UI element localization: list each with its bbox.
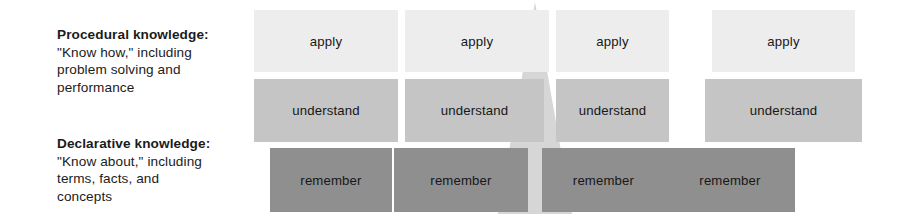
matrix-cell-remember-1: remember: [270, 148, 392, 212]
legend-procedural-title: Procedural knowledge:: [57, 26, 257, 44]
legend-procedural-line-3: performance: [57, 79, 257, 97]
legend-procedural-knowledge: Procedural knowledge: "Know how," includ…: [57, 26, 257, 96]
matrix-cell-label: remember: [430, 173, 491, 188]
matrix-cell-remember-4: remember: [665, 148, 795, 212]
matrix-cell-apply-4: apply: [712, 10, 855, 72]
legend-declarative-line-2: terms, facts, and: [57, 170, 257, 188]
matrix-cell-label: remember: [699, 173, 760, 188]
legend-procedural-line-2: problem solving and: [57, 61, 257, 79]
matrix-cell-remember-3: remember: [542, 148, 665, 212]
matrix-cell-label: understand: [441, 103, 509, 118]
legend-procedural-line-1: "Know how," including: [57, 44, 257, 62]
matrix-cell-label: apply: [596, 34, 628, 49]
matrix-cell-label: understand: [292, 103, 360, 118]
legend-declarative-title: Declarative knowledge:: [57, 135, 257, 153]
matrix-cell-label: remember: [573, 173, 634, 188]
matrix-cell-label: apply: [461, 34, 493, 49]
matrix-cell-apply-3: apply: [556, 10, 669, 72]
legend-declarative-line-1: "Know about," including: [57, 153, 257, 171]
matrix-cell-label: understand: [750, 103, 818, 118]
matrix-cell-understand-1: understand: [254, 79, 398, 142]
legend-declarative-knowledge: Declarative knowledge: "Know about," inc…: [57, 135, 257, 205]
matrix-cell-label: understand: [579, 103, 647, 118]
matrix-cell-apply-2: apply: [405, 10, 549, 72]
matrix-cell-understand-4: understand: [705, 79, 862, 142]
knowledge-matrix-figure: Procedural knowledge: "Know how," includ…: [0, 0, 899, 218]
matrix-cell-label: remember: [300, 173, 361, 188]
matrix-cell-understand-3: understand: [556, 79, 669, 142]
legend-declarative-line-3: concepts: [57, 188, 257, 206]
matrix-cell-understand-2: understand: [405, 79, 544, 142]
matrix-cell-apply-1: apply: [254, 10, 398, 72]
matrix-cell-remember-2: remember: [394, 148, 528, 212]
matrix-cell-label: apply: [310, 34, 342, 49]
matrix-cell-label: apply: [767, 34, 799, 49]
